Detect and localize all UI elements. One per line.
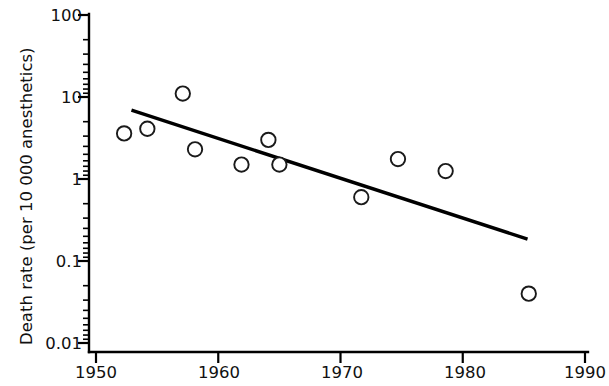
x-tick-label-1980: 1980 bbox=[444, 363, 486, 382]
data-point-group bbox=[117, 86, 536, 300]
x-axis-ticks bbox=[96, 352, 585, 363]
data-point bbox=[176, 86, 190, 100]
data-point bbox=[234, 157, 248, 171]
y-tick-label-100: 100 bbox=[51, 6, 83, 25]
data-point bbox=[117, 126, 131, 140]
data-point bbox=[261, 133, 275, 147]
y-tick-label-0-01: 0.01 bbox=[45, 334, 82, 353]
data-point bbox=[438, 164, 452, 178]
trend-line-group bbox=[131, 110, 527, 239]
data-point bbox=[140, 122, 154, 136]
data-point bbox=[391, 152, 405, 166]
death-rate-log-scatter-plot: Death rate (per 10 000 anesthetics) 100 … bbox=[0, 0, 609, 386]
x-tick-label-1960: 1960 bbox=[198, 363, 240, 382]
x-tick-label-1970: 1970 bbox=[321, 363, 363, 382]
data-point bbox=[354, 190, 368, 204]
data-point bbox=[188, 142, 202, 156]
y-axis-ticks bbox=[78, 15, 89, 343]
trend-line bbox=[131, 110, 527, 239]
data-point bbox=[272, 157, 286, 171]
data-point bbox=[522, 286, 536, 300]
chart-figure: Death rate (per 10 000 anesthetics) 100 … bbox=[0, 0, 609, 386]
y-axis-label: Death rate (per 10 000 anesthetics) bbox=[17, 47, 36, 345]
x-tick-label-1950: 1950 bbox=[75, 363, 117, 382]
x-tick-label-1990: 1990 bbox=[564, 363, 606, 382]
